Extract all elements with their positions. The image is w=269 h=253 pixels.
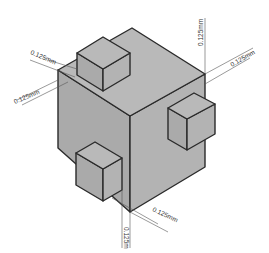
- dimension-label-bottom-diagonal: 0.125mm: [152, 206, 180, 224]
- dimension-label-bottom-vertical: 0.125m: [123, 227, 130, 249]
- dimension-label-top-right-diagonal: 0.125mm: [229, 48, 256, 68]
- dimension-label-top-left-upper: 0.125mm: [30, 48, 58, 65]
- dimension-label-top-left-lower: 0.125mm: [13, 88, 41, 105]
- isometric-cube-diagram: 0.125mm 0.125mm 0.125mm 0.125mm 0.125mm …: [0, 0, 269, 253]
- dimension-label-top-right-vertical: 0.125mm: [197, 19, 204, 46]
